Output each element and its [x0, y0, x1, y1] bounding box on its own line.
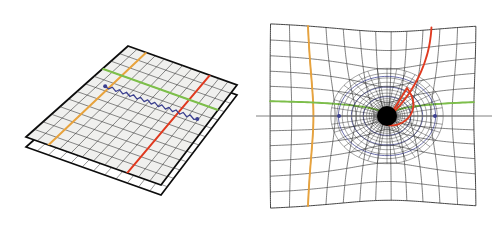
curved-spacetime-panel	[250, 0, 499, 230]
black-hole-core	[377, 106, 397, 126]
ray-start-marker	[103, 84, 107, 88]
flat-panel-canvas	[0, 0, 250, 230]
figure-root: Flat spacetime grid and curved spacetime…	[0, 0, 499, 230]
curved-panel-canvas	[250, 0, 499, 230]
ray-end-marker	[195, 117, 199, 121]
flat-spacetime-panel	[0, 0, 250, 230]
blue-dot-right	[433, 114, 437, 118]
blue-dot-left	[337, 114, 341, 118]
upper-sheet	[26, 46, 237, 185]
